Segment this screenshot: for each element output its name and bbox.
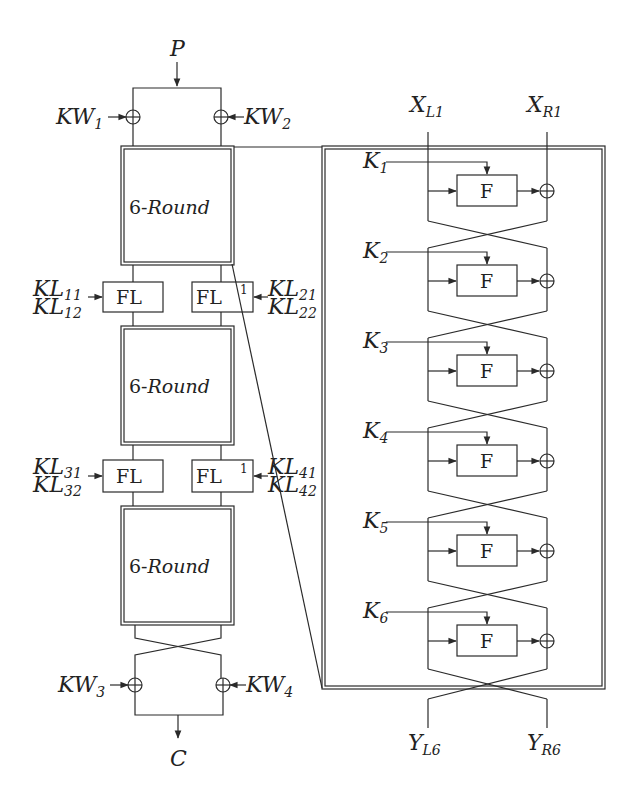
plaintext-label: P [169, 36, 186, 61]
swap-line [135, 625, 221, 678]
feistel-round-3: K3 F [362, 328, 554, 428]
kw1-key: KW1 [55, 104, 126, 132]
svg-text:K1: K1 [362, 148, 388, 176]
feistel-round-1: K1 F [362, 148, 554, 248]
svg-text:K4: K4 [362, 418, 388, 446]
six-round-block-3: 6-Round [121, 506, 234, 625]
svg-text:F: F [480, 180, 493, 202]
feistel-round-6: K6 F [362, 598, 554, 699]
fl-inverse-label: FL [196, 465, 222, 487]
ciphertext-label: C [170, 746, 187, 771]
svg-text:6-Round: 6-Round [129, 555, 210, 577]
svg-text:F: F [480, 540, 493, 562]
xor-icon [540, 454, 554, 468]
output-merge-lines [135, 692, 223, 715]
svg-text:K5: K5 [362, 508, 388, 536]
round-key-arrow-icon [386, 612, 487, 624]
six-round-block-2: 6-Round [121, 326, 234, 445]
xor-icon [540, 274, 554, 288]
svg-text:K6: K6 [362, 598, 388, 626]
input-left-label: XL1 [408, 92, 444, 120]
svg-text:F: F [480, 630, 493, 652]
left-structure: P KW1 KW2 6-Round KL11 K [32, 36, 317, 771]
feistel-round-5: K5 F [362, 508, 554, 608]
kw4-key: KW4 [230, 672, 293, 700]
feistel-round-2: K2 F [362, 238, 554, 338]
xor-icon [540, 364, 554, 378]
kw3-key: KW3 [57, 672, 128, 700]
svg-text:KW3: KW3 [57, 672, 105, 700]
svg-text:6-Round: 6-Round [129, 196, 210, 218]
xor-kw2-icon [214, 110, 228, 124]
fl-inverse-label: FL [196, 286, 222, 308]
xor-kw3-icon [128, 678, 142, 692]
xor-icon [540, 634, 554, 648]
input-right-label: XR1 [525, 92, 562, 120]
swap-line [135, 625, 221, 678]
svg-text:K3: K3 [362, 328, 388, 356]
svg-text:1: 1 [240, 462, 248, 476]
svg-text:KW4: KW4 [245, 672, 293, 700]
input-split-lines [133, 88, 221, 146]
round-key-arrow-icon [386, 252, 487, 264]
xor-icon [540, 544, 554, 558]
round-key-arrow-icon [386, 432, 487, 444]
six-round-block-1: 6-Round [121, 146, 234, 265]
xor-icon [540, 184, 554, 198]
fl-label: FL [116, 286, 142, 308]
svg-text:6-Round: 6-Round [129, 375, 210, 397]
svg-text:K2: K2 [362, 238, 388, 266]
xor-kw1-icon [126, 110, 140, 124]
fl-layer-1: KL11 KL12 FL FL 1 KL21 KL22 [32, 276, 317, 321]
fl-label: FL [116, 465, 142, 487]
round-key-arrow-icon [386, 342, 487, 354]
kw2-key: KW2 [228, 104, 291, 132]
output-right-label: YR6 [527, 730, 561, 758]
svg-text:F: F [480, 270, 493, 292]
round-key-arrow-icon [386, 522, 487, 534]
xor-kw4-icon [216, 678, 230, 692]
camellia-diagram: P KW1 KW2 6-Round KL11 K [0, 0, 641, 806]
round-key-arrow-icon [386, 162, 487, 174]
svg-text:1: 1 [240, 283, 248, 297]
svg-text:KW2: KW2 [243, 104, 291, 132]
svg-text:KW1: KW1 [55, 104, 103, 132]
svg-text:F: F [480, 360, 493, 382]
feistel-round-4: K4 F [362, 418, 554, 518]
round-detail-panel: XL1 XR1 K1 F K2 F [322, 92, 605, 758]
svg-text:F: F [480, 450, 493, 472]
output-left-label: YL6 [408, 730, 441, 758]
